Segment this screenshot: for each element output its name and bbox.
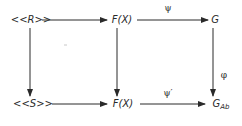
node-r-pre: << (11, 14, 28, 25)
node-g: G (211, 15, 219, 25)
node-gab: GAb (213, 99, 230, 111)
node-s-pre: << (13, 98, 30, 109)
node-gab-sub: Ab (220, 103, 229, 111)
node-r-post: >> (34, 14, 51, 25)
node-fx-top-main: F(X) (112, 14, 132, 25)
node-fx-bottom: F(X) (113, 99, 133, 109)
node-fx-top: F(X) (112, 15, 132, 25)
node-gab-main: G (213, 98, 221, 109)
node-s: <<S>> (13, 99, 53, 109)
node-g-main: G (211, 14, 219, 25)
label-psi: ψ (164, 4, 171, 13)
label-psi-prime: ψ′ (163, 89, 172, 98)
node-s-post: >> (36, 98, 53, 109)
commutative-diagram: <<R>> F(X) G <<S>> F(X) GAb ψ ψ′ φ (0, 0, 242, 126)
label-phi: φ (221, 71, 227, 80)
node-r-main: R (28, 14, 35, 25)
node-fx-bottom-main: F(X) (113, 98, 133, 109)
node-r: <<R>> (11, 15, 51, 25)
